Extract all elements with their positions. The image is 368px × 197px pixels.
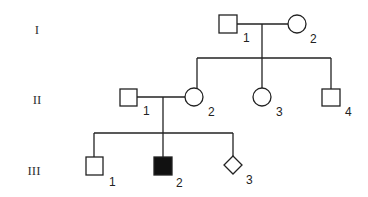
female-symbol-II-3 <box>253 88 271 106</box>
affected-male-symbol-III-2 <box>154 157 172 175</box>
pedigree-chart: I II III 1 2 1 2 3 4 1 2 3 <box>0 0 368 197</box>
unknown-sex-symbol-III-3 <box>224 156 242 174</box>
individual-number-III-2: 2 <box>176 176 183 190</box>
generation-label-II: II <box>33 92 42 107</box>
individual-number-II-3: 3 <box>276 105 283 119</box>
individual-number-I-1: 1 <box>243 31 250 45</box>
individual-number-II-4: 4 <box>345 105 352 119</box>
individual-number-III-3: 3 <box>246 173 253 187</box>
female-symbol-II-2 <box>185 88 203 106</box>
individual-number-II-2: 2 <box>208 105 215 119</box>
individual-number-I-2: 2 <box>310 32 317 46</box>
male-symbol-I-1 <box>219 15 237 33</box>
generation-label-III: III <box>28 163 41 178</box>
male-symbol-II-4 <box>322 89 340 106</box>
male-symbol-III-1 <box>86 157 103 175</box>
individual-number-II-1: 1 <box>143 104 150 118</box>
generation-label-I: I <box>35 22 39 37</box>
male-symbol-II-1 <box>120 89 137 106</box>
individual-number-III-1: 1 <box>109 175 116 189</box>
female-symbol-I-2 <box>288 15 306 33</box>
